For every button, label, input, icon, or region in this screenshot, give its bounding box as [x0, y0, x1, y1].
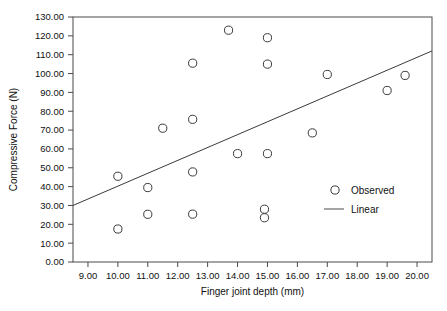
y-tick-label: 30.00 — [40, 200, 64, 211]
data-point-marker — [263, 150, 271, 158]
data-point-marker — [189, 115, 197, 123]
data-point-marker — [114, 172, 122, 180]
x-tick-label: 10.00 — [106, 270, 130, 281]
x-tick-label: 12.00 — [166, 270, 190, 281]
data-point-marker — [263, 34, 271, 42]
x-tick-label: 9.00 — [79, 270, 98, 281]
legend-observed-marker-icon — [331, 186, 339, 194]
x-tick-label: 11.00 — [136, 270, 159, 281]
y-axis: 0.0010.0020.0030.0040.0050.0060.0070.008… — [35, 11, 73, 267]
data-point-marker — [260, 205, 268, 213]
x-tick-label: 19.00 — [375, 270, 399, 281]
y-tick-label: 80.00 — [40, 106, 64, 117]
data-point-marker — [159, 124, 167, 132]
y-tick-label: 110.00 — [36, 49, 64, 60]
legend: ObservedLinear — [324, 185, 394, 215]
x-tick-label: 17.00 — [315, 270, 339, 281]
data-point-marker — [260, 214, 268, 222]
data-point-marker — [224, 26, 232, 34]
data-point-marker — [383, 86, 391, 94]
y-tick-label: 50.00 — [40, 162, 64, 173]
chart-canvas: 0.0010.0020.0030.0040.0050.0060.0070.008… — [0, 0, 447, 311]
x-tick-label: 16.00 — [285, 270, 309, 281]
data-point-marker — [323, 70, 331, 78]
y-tick-label: 60.00 — [40, 143, 64, 154]
y-axis-title: Compressive Force (N) — [8, 88, 19, 191]
data-point-marker — [189, 210, 197, 218]
scatter-plot-figure: 0.0010.0020.0030.0040.0050.0060.0070.008… — [0, 0, 447, 311]
plot-frame — [73, 17, 432, 262]
y-tick-label: 40.00 — [40, 181, 64, 192]
data-point-marker — [263, 60, 271, 68]
data-point-marker — [144, 183, 152, 191]
data-point-marker — [189, 59, 197, 67]
y-tick-label: 120.00 — [35, 30, 64, 41]
legend-observed-label: Observed — [351, 185, 394, 196]
x-tick-label: 14.00 — [226, 270, 250, 281]
data-point-marker — [189, 168, 197, 176]
data-point-marker — [114, 225, 122, 233]
y-tick-label: 0.00 — [46, 256, 65, 267]
x-tick-label: 20.00 — [405, 270, 429, 281]
observed-points-group — [114, 26, 409, 233]
linear-fit-line — [73, 51, 432, 206]
legend-linear-label: Linear — [351, 204, 379, 215]
x-axis: 9.0010.0011.0012.0013.0014.0015.0016.001… — [79, 262, 429, 281]
y-tick-label: 20.00 — [40, 219, 64, 230]
y-tick-label: 90.00 — [40, 87, 64, 98]
x-tick-label: 13.00 — [196, 270, 220, 281]
x-tick-label: 18.00 — [345, 270, 369, 281]
y-tick-label: 10.00 — [40, 238, 64, 249]
data-point-marker — [233, 150, 241, 158]
x-axis-title: Finger joint depth (mm) — [201, 286, 304, 297]
y-tick-label: 130.00 — [35, 11, 64, 22]
data-point-marker — [308, 129, 316, 137]
x-tick-label: 15.00 — [256, 270, 280, 281]
data-point-marker — [144, 210, 152, 218]
y-tick-label: 100.00 — [35, 68, 64, 79]
y-tick-label: 70.00 — [40, 124, 64, 135]
data-point-marker — [401, 71, 409, 79]
